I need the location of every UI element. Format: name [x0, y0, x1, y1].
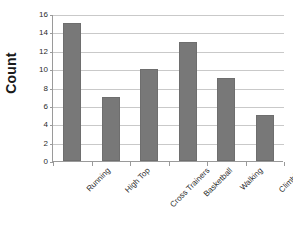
bar-slot [169, 14, 208, 161]
bar-slot [92, 14, 131, 161]
bar [256, 115, 274, 161]
y-tick-mark [50, 125, 53, 126]
bar-chart: Count 0246810121416 RunningHigh TopCross… [0, 0, 293, 227]
y-tick-mark [50, 33, 53, 34]
y-tick-label: 16 [14, 11, 48, 19]
bar [217, 78, 235, 161]
x-tick-label: Walking [238, 166, 264, 192]
x-axis-tick-labels: RunningHigh TopCross TrainersBasketballW… [52, 166, 283, 226]
bar-slot [130, 14, 169, 161]
y-tick-label: 12 [14, 48, 48, 56]
x-tick-mark [284, 162, 285, 166]
bar-slot [207, 14, 246, 161]
y-tick-label: 2 [14, 140, 48, 148]
y-tick-mark [50, 15, 53, 16]
bar [102, 97, 120, 161]
plot-area [52, 15, 283, 162]
bar-slot [246, 14, 285, 161]
y-tick-mark [50, 89, 53, 90]
y-tick-mark [50, 52, 53, 53]
y-tick-label: 4 [14, 121, 48, 129]
bar [179, 42, 197, 161]
y-tick-label: 0 [14, 158, 48, 166]
x-tick-label: Climbing [277, 166, 293, 194]
bar [63, 23, 81, 161]
x-tick-label: High Top [124, 166, 153, 195]
bar-slot [53, 14, 92, 161]
x-tick-label: Running [85, 166, 112, 193]
bar [140, 69, 158, 161]
y-tick-mark [50, 70, 53, 71]
y-tick-label: 10 [14, 66, 48, 74]
y-tick-label: 8 [14, 85, 48, 93]
y-tick-label: 14 [14, 29, 48, 37]
y-tick-mark [50, 107, 53, 108]
y-tick-mark [50, 162, 53, 163]
y-tick-label: 6 [14, 103, 48, 111]
y-tick-mark [50, 144, 53, 145]
